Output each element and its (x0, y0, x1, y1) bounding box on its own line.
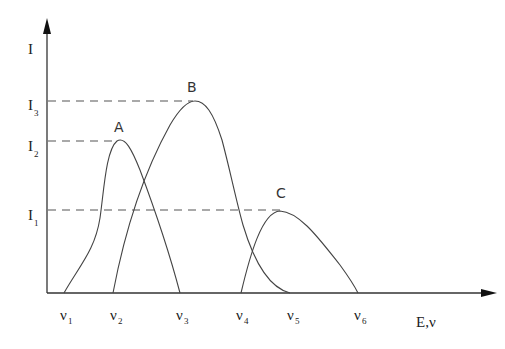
svg-text:2: 2 (118, 316, 123, 326)
svg-text:2: 2 (34, 149, 39, 159)
svg-text:ν: ν (236, 307, 243, 323)
peak-label-a: A (114, 119, 124, 135)
x-tick-v2: ν 2 (110, 307, 123, 326)
x-tick-v1: ν 1 (60, 307, 73, 326)
svg-text:1: 1 (68, 316, 73, 326)
x-axis-arrow-icon (481, 289, 497, 297)
svg-text:I: I (28, 207, 33, 223)
y-tick-i2: I 2 (28, 138, 39, 159)
y-tick-i3: I 3 (28, 97, 39, 118)
curve-b (113, 101, 290, 293)
svg-text:4: 4 (244, 316, 249, 326)
svg-text:ν: ν (354, 307, 361, 323)
curve-a (64, 140, 180, 293)
svg-text:5: 5 (295, 316, 300, 326)
svg-text:ν: ν (60, 307, 67, 323)
curve-c (241, 211, 358, 293)
peak-label-b: B (187, 79, 197, 95)
svg-text:ν: ν (287, 307, 294, 323)
svg-text:3: 3 (184, 316, 189, 326)
intensity-energy-diagram: A B C I I 3 I 2 I 1 ν 1 ν 2 ν 3 ν 4 ν 5 … (0, 0, 505, 349)
x-tick-v4: ν 4 (236, 307, 249, 326)
x-tick-v5: ν 5 (287, 307, 300, 326)
svg-text:ν: ν (176, 307, 183, 323)
svg-text:ν: ν (110, 307, 117, 323)
y-tick-i1: I 1 (28, 207, 39, 228)
svg-text:3: 3 (34, 108, 39, 118)
x-tick-v3: ν 3 (176, 307, 189, 326)
svg-text:1: 1 (34, 218, 39, 228)
x-axis-label: E,ν (416, 314, 436, 330)
x-tick-v6: ν 6 (354, 307, 367, 326)
svg-text:I: I (28, 97, 33, 113)
svg-text:6: 6 (362, 316, 367, 326)
y-axis-arrow-icon (43, 18, 51, 34)
peak-label-c: C (276, 185, 286, 201)
y-axis-label: I (28, 41, 33, 57)
svg-text:I: I (28, 138, 33, 154)
